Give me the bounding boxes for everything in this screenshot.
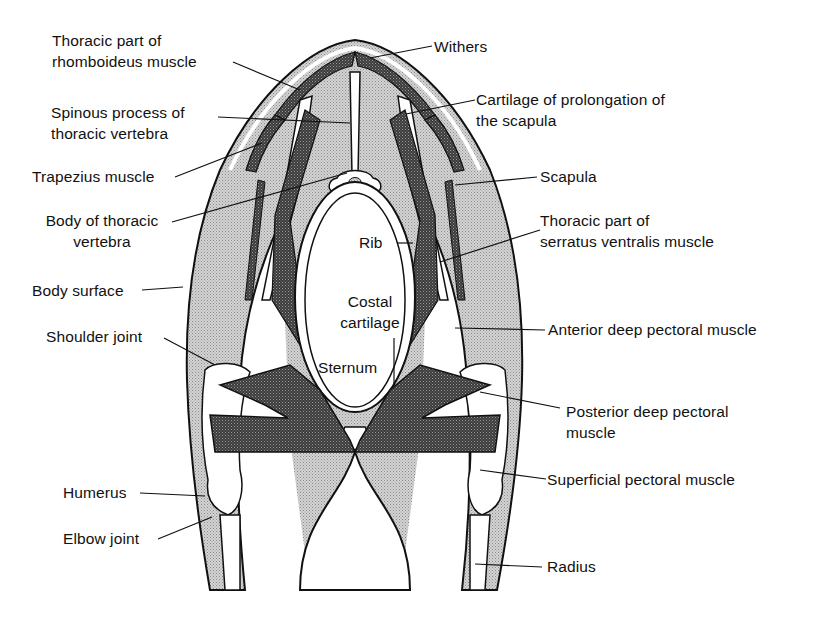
label-trapezius: Trapezius muscle	[32, 166, 154, 187]
spinous-process	[350, 72, 360, 175]
label-rib: Rib	[359, 232, 383, 253]
label-scapula: Scapula	[540, 166, 597, 187]
label-costal-line2: cartilage	[330, 312, 410, 333]
label-body-vertebra: Body of thoracic vertebra	[32, 210, 172, 252]
label-cartilage-scapula: Cartilage of prolongation of the scapula	[476, 89, 665, 131]
label-posterior-deep-pectoral: Posterior deep pectoral muscle	[566, 401, 729, 443]
label-elbow-joint: Elbow joint	[63, 528, 139, 549]
label-anterior-deep-pectoral: Anterior deep pectoral muscle	[548, 319, 757, 340]
label-withers: Withers	[434, 36, 487, 57]
label-spinous-line2: thoracic vertebra	[51, 123, 185, 144]
label-cartilage-scapula-line2: the scapula	[476, 110, 665, 131]
label-body-vertebra-line2: vertebra	[32, 231, 172, 252]
label-shoulder-joint: Shoulder joint	[46, 326, 142, 347]
label-costal-cartilage: Costal cartilage	[330, 291, 410, 333]
label-spinous-line1: Spinous process of	[51, 102, 185, 123]
anatomy-diagram: Thoracic part of rhomboideus muscle Spin…	[0, 0, 829, 626]
label-body-vertebra-line1: Body of thoracic	[32, 210, 172, 231]
label-spinous-process: Spinous process of thoracic vertebra	[51, 102, 185, 144]
label-body-surface: Body surface	[32, 280, 124, 301]
label-humerus: Humerus	[63, 482, 127, 503]
label-rhomboideus: Thoracic part of rhomboideus muscle	[52, 30, 197, 72]
label-radius: Radius	[547, 556, 596, 577]
label-serratus-line1: Thoracic part of	[540, 210, 714, 231]
label-rhomboideus-line1: Thoracic part of	[52, 30, 197, 51]
label-posterior-deep-pectoral-line2: muscle	[566, 422, 729, 443]
label-costal-line1: Costal	[330, 291, 410, 312]
label-serratus-line2: serratus ventralis muscle	[540, 231, 714, 252]
label-cartilage-scapula-line1: Cartilage of prolongation of	[476, 89, 665, 110]
label-sternum: Sternum	[318, 357, 377, 378]
label-serratus: Thoracic part of serratus ventralis musc…	[540, 210, 714, 252]
label-posterior-deep-pectoral-line1: Posterior deep pectoral	[566, 401, 729, 422]
label-superficial-pectoral: Superficial pectoral muscle	[547, 469, 735, 490]
label-rhomboideus-line2: rhomboideus muscle	[52, 51, 197, 72]
